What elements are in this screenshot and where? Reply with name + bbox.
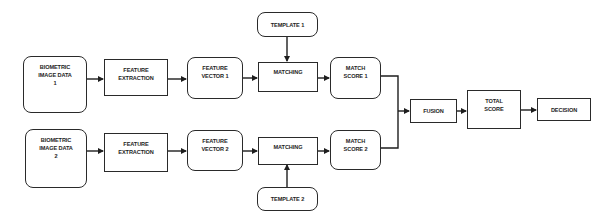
node-template-1: TEMPLATE 1 <box>257 12 318 37</box>
node-feature-vector-2: FEATURE VECTOR 2 <box>187 130 243 171</box>
node-biometric-image-data-2: BIOMETRIC IMAGE DATA 2 <box>25 129 87 188</box>
node-label: DECISION <box>551 106 577 114</box>
node-template-2: TEMPLATE 2 <box>257 187 318 211</box>
node-label: TEMPLATE 2 <box>271 195 304 203</box>
edge-ms2-fusion <box>381 111 398 148</box>
node-label: MATCHING <box>274 143 303 151</box>
node-matching-2: MATCHING <box>258 137 318 165</box>
node-feature-extraction-2: FEATURE EXTRACTION <box>104 133 168 172</box>
edge-ms1-fusion <box>381 76 398 111</box>
node-fusion: FUSION <box>410 99 457 123</box>
node-label: MATCH SCORE 1 <box>344 64 368 80</box>
node-label: BIOMETRIC IMAGE DATA 1 <box>38 63 72 87</box>
node-label: MATCH SCORE 2 <box>344 137 368 153</box>
node-label: TEMPLATE 1 <box>271 21 304 29</box>
node-label: MATCHING <box>274 68 303 76</box>
node-label: FEATURE VECTOR 1 <box>201 64 228 80</box>
node-label: FEATURE VECTOR 2 <box>201 137 228 153</box>
node-label: BIOMETRIC IMAGE DATA 2 <box>39 136 73 160</box>
node-label: FEATURE EXTRACTION <box>118 66 153 82</box>
node-label: FUSION <box>423 107 444 115</box>
node-matching-1: MATCHING <box>258 62 318 92</box>
node-feature-extraction-1: FEATURE EXTRACTION <box>104 59 168 96</box>
node-match-score-2: MATCH SCORE 2 <box>330 130 381 170</box>
node-match-score-1: MATCH SCORE 1 <box>330 57 381 99</box>
node-feature-vector-1: FEATURE VECTOR 1 <box>187 57 243 99</box>
node-decision: DECISION <box>537 98 591 121</box>
node-total-score: TOTAL SCORE <box>467 90 521 129</box>
node-label: FEATURE EXTRACTION <box>118 140 153 156</box>
node-biometric-image-data-1: BIOMETRIC IMAGE DATA 1 <box>23 56 87 113</box>
node-label: TOTAL SCORE <box>484 97 503 113</box>
